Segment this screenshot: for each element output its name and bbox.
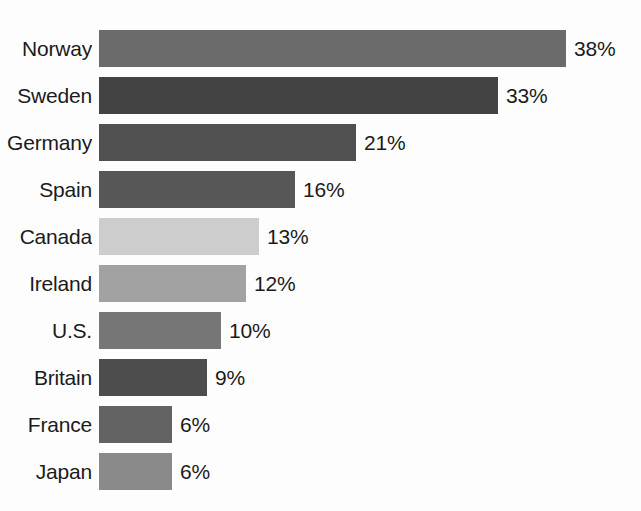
category-label: Japan: [0, 453, 92, 490]
category-label: Ireland: [0, 265, 92, 302]
bar-row: Sweden33%: [0, 77, 641, 114]
bar: [99, 406, 172, 443]
bar: [99, 312, 221, 349]
category-label: Sweden: [0, 77, 92, 114]
bar-row: Ireland12%: [0, 265, 641, 302]
bar: [99, 359, 207, 396]
category-label: U.S.: [0, 312, 92, 349]
bar-row: U.S.10%: [0, 312, 641, 349]
value-label: 12%: [254, 265, 295, 302]
category-label: France: [0, 406, 92, 443]
value-label: 38%: [574, 30, 615, 67]
bar: [99, 124, 356, 161]
value-label: 13%: [267, 218, 308, 255]
bar-row: Spain16%: [0, 171, 641, 208]
category-label: Germany: [0, 124, 92, 161]
value-label: 9%: [215, 359, 245, 396]
category-label: Norway: [0, 30, 92, 67]
bar: [99, 265, 246, 302]
value-label: 10%: [229, 312, 270, 349]
bar-row: Norway38%: [0, 30, 641, 67]
bar-row: Japan6%: [0, 453, 641, 490]
category-label: Spain: [0, 171, 92, 208]
bar: [99, 77, 498, 114]
bar-row: Germany21%: [0, 124, 641, 161]
value-label: 6%: [180, 453, 210, 490]
bar-row: France6%: [0, 406, 641, 443]
value-label: 33%: [506, 77, 547, 114]
bar-chart: Norway38%Sweden33%Germany21%Spain16%Cana…: [0, 0, 641, 511]
bar: [99, 30, 566, 67]
bar-row: Britain9%: [0, 359, 641, 396]
category-label: Canada: [0, 218, 92, 255]
value-label: 6%: [180, 406, 210, 443]
category-label: Britain: [0, 359, 92, 396]
bar-row: Canada13%: [0, 218, 641, 255]
bar: [99, 171, 295, 208]
value-label: 21%: [364, 124, 405, 161]
bar: [99, 218, 259, 255]
value-label: 16%: [303, 171, 344, 208]
bar: [99, 453, 172, 490]
